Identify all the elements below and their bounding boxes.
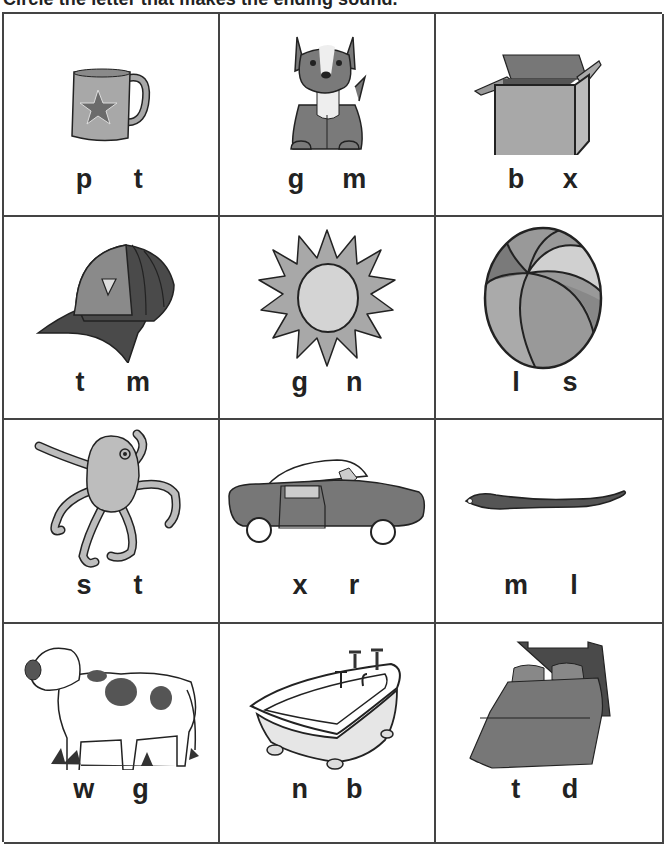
bathtub-icon: [247, 640, 407, 770]
box-icon: [473, 35, 613, 155]
cell-sun: g n: [220, 217, 436, 420]
choice-letter[interactable]: t: [130, 164, 146, 195]
choice-letter[interactable]: g: [132, 774, 149, 805]
choice-letter[interactable]: m: [504, 570, 528, 601]
choice-letter[interactable]: s: [562, 367, 578, 398]
car-icon: [227, 456, 427, 546]
instruction-heading: Circle the letter that makes the ending …: [3, 0, 398, 10]
choice-letter[interactable]: t: [508, 774, 524, 805]
cell-worm: m l: [436, 420, 664, 624]
choice-letter[interactable]: m: [342, 164, 366, 195]
choice-letter[interactable]: s: [76, 570, 92, 601]
ball-icon: [478, 223, 608, 373]
choice-letter[interactable]: b: [346, 774, 363, 805]
choice-letter[interactable]: n: [346, 367, 363, 398]
worm-icon: [458, 481, 628, 521]
cell-box: b x: [436, 14, 664, 217]
choice-letter[interactable]: w: [73, 774, 94, 805]
cell-bed: t d: [436, 624, 664, 844]
cap-icon: [36, 233, 186, 363]
cell-car: x r: [220, 420, 436, 624]
choice-letter[interactable]: d: [562, 774, 579, 805]
cell-dog: g m: [220, 14, 436, 217]
dog-icon: [277, 25, 377, 165]
choice-letter[interactable]: n: [292, 774, 309, 805]
mug-icon: [56, 40, 166, 150]
picture-grid: p t g m: [2, 12, 662, 842]
choice-letter[interactable]: r: [346, 570, 362, 601]
choice-letter[interactable]: x: [562, 164, 578, 195]
choice-letter[interactable]: t: [130, 570, 146, 601]
sun-icon: [257, 228, 397, 368]
choice-letter[interactable]: m: [126, 367, 150, 398]
cell-octopus: s t: [4, 420, 220, 624]
choice-letter[interactable]: b: [508, 164, 525, 195]
choice-letter[interactable]: p: [76, 164, 93, 195]
cell-hat: t m: [4, 217, 220, 420]
choice-letter[interactable]: g: [292, 367, 309, 398]
cell-mug: p t: [4, 14, 220, 217]
cell-ball: l s: [436, 217, 664, 420]
choice-letter[interactable]: l: [566, 570, 582, 601]
choice-letter[interactable]: g: [288, 164, 305, 195]
cell-tub: n b: [220, 624, 436, 844]
cell-cow: w g: [4, 624, 220, 844]
bed-icon: [468, 640, 618, 770]
choice-letter[interactable]: l: [508, 367, 524, 398]
choice-letter[interactable]: t: [72, 367, 88, 398]
choice-letter[interactable]: x: [292, 570, 308, 601]
cow-icon: [21, 640, 201, 770]
octopus-icon: [31, 426, 191, 576]
